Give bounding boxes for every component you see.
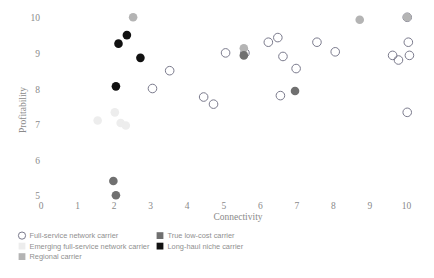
y-axis-title: Profitability <box>18 87 28 133</box>
legend-item-emerging_full_service[interactable]: Emerging full-service network carrier <box>19 242 150 251</box>
data-point <box>111 108 120 117</box>
x-tick-label: 6 <box>258 201 263 211</box>
data-point <box>403 108 412 117</box>
y-tick-label: 10 <box>31 13 41 23</box>
x-tick-label: 8 <box>331 201 336 211</box>
series-long_haul_niche <box>112 31 145 91</box>
data-point <box>93 116 102 125</box>
x-tick-label: 7 <box>294 201 299 211</box>
data-point <box>405 51 414 60</box>
data-point <box>388 51 397 60</box>
data-point <box>331 48 340 57</box>
data-point <box>404 38 413 47</box>
legend-label: Emerging full-service network carrier <box>30 242 150 251</box>
legend-marker-icon <box>157 243 164 250</box>
x-tick-label: 0 <box>39 201 44 211</box>
x-tick-label: 3 <box>148 201 153 211</box>
legend-marker-icon <box>19 243 26 250</box>
data-point <box>136 54 145 63</box>
data-point <box>148 84 157 93</box>
series-full_service <box>148 13 414 117</box>
legend-label: True low-cost carrier <box>168 231 236 240</box>
x-tick-label: 4 <box>185 201 190 211</box>
x-axis-title: Connectivity <box>213 212 262 222</box>
series-true_low_cost <box>109 51 299 200</box>
data-point <box>129 13 138 22</box>
data-point-layer <box>93 13 413 200</box>
data-point <box>264 38 273 47</box>
legend-label: Regional carrier <box>30 252 83 261</box>
y-axis-tick-labels: 5678910 <box>31 13 41 201</box>
x-tick-label: 5 <box>221 201 226 211</box>
series-emerging_full_service <box>93 108 130 130</box>
scatter-chart: 5678910 012345678910 Profitability Conne… <box>0 0 434 278</box>
data-point <box>209 100 218 109</box>
y-tick-label: 7 <box>35 120 40 130</box>
data-point <box>355 15 364 24</box>
data-point <box>403 13 412 22</box>
data-point <box>114 39 123 48</box>
data-point <box>292 64 301 73</box>
y-tick-label: 9 <box>35 49 40 59</box>
legend-marker-icon <box>19 253 26 260</box>
data-point <box>123 31 132 40</box>
data-point <box>112 191 121 200</box>
plot-canvas: 5678910 012345678910 Profitability Conne… <box>0 0 434 278</box>
legend-label: Full-service network carrier <box>30 231 119 240</box>
x-tick-label: 9 <box>368 201 373 211</box>
x-tick-label: 10 <box>402 201 412 211</box>
legend-marker-icon <box>157 232 164 239</box>
data-point <box>279 52 288 61</box>
chart-legend: Full-service network carrierEmerging ful… <box>18 231 243 261</box>
x-tick-label: 1 <box>75 201 80 211</box>
legend-item-long_haul_niche[interactable]: Long-haul niche carrier <box>157 242 244 251</box>
data-point <box>122 121 131 130</box>
data-point <box>221 49 230 58</box>
data-point <box>274 33 283 42</box>
legend-label: Long-haul niche carrier <box>168 242 244 251</box>
data-point <box>276 91 285 100</box>
data-point <box>112 82 121 91</box>
legend-item-true_low_cost[interactable]: True low-cost carrier <box>157 231 236 240</box>
data-point <box>394 56 403 65</box>
legend-item-full_service[interactable]: Full-service network carrier <box>18 231 118 240</box>
data-point <box>199 93 208 102</box>
x-axis-tick-labels: 012345678910 <box>39 201 412 211</box>
data-point <box>240 51 249 60</box>
data-point <box>109 177 118 186</box>
y-tick-label: 6 <box>35 156 40 166</box>
data-point <box>291 87 300 96</box>
legend-marker-icon <box>18 232 25 239</box>
legend-item-regional[interactable]: Regional carrier <box>19 252 83 261</box>
data-point <box>165 66 174 75</box>
y-tick-label: 5 <box>35 191 40 201</box>
y-tick-label: 8 <box>35 85 40 95</box>
data-point <box>313 38 322 47</box>
x-tick-label: 2 <box>112 201 117 211</box>
